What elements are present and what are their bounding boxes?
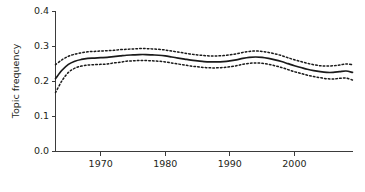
x-tick-label: 1970 [89, 158, 113, 169]
y-axis-title: Topic frequency [10, 43, 21, 119]
x-tick-label: 1980 [153, 158, 177, 169]
chart-figure: 0.00.10.20.30.4 1970198019902000 Topic f… [0, 0, 365, 192]
x-tick-label: 2000 [282, 158, 306, 169]
x-axis: 1970198019902000 [56, 152, 353, 169]
y-tick-label: 0.1 [34, 110, 49, 121]
y-tick-label: 0.0 [34, 145, 49, 156]
chart-series-group [56, 49, 353, 93]
y-axis-ticks: 0.00.10.20.30.4 [34, 5, 56, 156]
x-axis-ticks: 1970198019902000 [89, 152, 307, 169]
y-tick-label: 0.2 [34, 75, 49, 86]
y-axis: 0.00.10.20.30.4 [34, 5, 56, 156]
x-tick-label: 1990 [218, 158, 242, 169]
topic-frequency-line-chart: 0.00.10.20.30.4 1970198019902000 Topic f… [0, 0, 365, 192]
confidence-band-line [56, 60, 353, 92]
y-tick-label: 0.4 [34, 5, 49, 16]
y-tick-label: 0.3 [34, 40, 49, 51]
